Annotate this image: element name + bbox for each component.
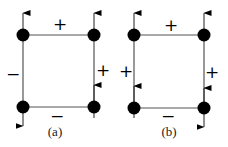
node-top-right xyxy=(198,29,211,42)
node-bottom-right xyxy=(88,101,101,114)
node-top-left xyxy=(128,29,141,42)
sign-right: + xyxy=(96,60,110,80)
node-bottom-left xyxy=(17,101,30,114)
node-top-right xyxy=(88,29,101,42)
sign-top: + xyxy=(53,14,67,34)
sign-left: − xyxy=(6,64,20,84)
sign-top: + xyxy=(164,15,178,35)
node-bottom-right xyxy=(198,102,211,115)
panel-b: + − + + (b) xyxy=(119,13,219,139)
caption-a: (a) xyxy=(48,124,62,139)
sign-right: + xyxy=(205,62,219,82)
sign-left: + xyxy=(119,61,133,81)
node-top-left xyxy=(17,29,30,42)
sign-bottom: − xyxy=(50,106,64,126)
panel-a: + − − + (a) xyxy=(6,13,110,139)
caption-b: (b) xyxy=(161,124,176,139)
node-bottom-left xyxy=(128,102,141,115)
sign-bottom: − xyxy=(161,106,175,126)
figure-canvas: + − − + (a) + − + + (b) xyxy=(0,0,228,147)
